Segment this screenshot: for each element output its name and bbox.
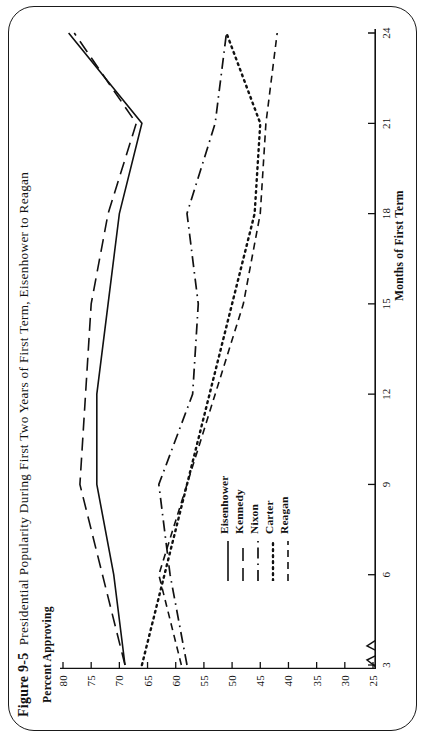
x-tick-label: 12 [380,383,392,405]
legend-label: Kennedy [233,489,245,534]
legend-swatch-short-dashed [279,541,289,581]
legend-item-nixon: Nixon [246,476,261,581]
figure-number: Figure 9-5 [16,652,31,717]
legend-item-reagan: Reagan [276,476,291,581]
y-tick-label: 40 [282,675,294,701]
x-tick-label: 24 [380,22,392,44]
y-tick-label: 25 [367,675,379,701]
x-tick-label: 6 [380,564,392,586]
y-tick-label: 65 [142,675,154,701]
y-tick-label: 60 [170,675,182,701]
x-tick-label: 21 [380,112,392,134]
figure-title-text: Presidential Popularity During First Two… [16,172,31,646]
legend-swatch-solid [219,541,229,581]
y-tick-label: 50 [226,675,238,701]
legend: EisenhowerKennedyNixonCarterReagan [216,476,291,581]
legend-swatch-dashed [234,541,244,581]
figure-page: Figure 9-5 Presidential Popularity Durin… [0,0,429,739]
x-tick-label: 18 [380,203,392,225]
legend-label: Reagan [278,496,290,534]
legend-label: Carter [263,500,275,534]
rotated-figure-canvas: Figure 9-5 Presidential Popularity Durin… [8,6,417,731]
x-axis-caption: Months of First Term [393,190,406,301]
legend-item-kennedy: Kennedy [231,476,246,581]
legend-swatch-dash-dot [249,541,259,581]
x-tick-label: 15 [380,293,392,315]
x-tick-label: 9 [380,473,392,495]
y-tick-label: 70 [113,675,125,701]
legend-label: Eisenhower [218,476,230,534]
page-border: Figure 9-5 Presidential Popularity Durin… [8,6,417,731]
series-line-eisenhower [69,33,142,665]
figure-title: Figure 9-5 Presidential Popularity Durin… [16,17,32,717]
y-tick-label: 55 [198,675,210,701]
legend-item-carter: Carter [261,476,276,581]
y-tick-label: 80 [57,675,69,701]
y-tick-label: 45 [254,675,266,701]
y-axis-caption: Percent Approving [41,606,54,703]
series-line-kennedy [74,33,136,665]
y-tick-label: 35 [311,675,323,701]
legend-label: Nixon [248,504,260,534]
x-tick-label: 3 [380,654,392,676]
y-tick-label: 75 [85,675,97,701]
y-tick-label: 30 [339,675,351,701]
legend-swatch-dotted [264,541,274,581]
legend-item-eisenhower: Eisenhower [216,476,231,581]
